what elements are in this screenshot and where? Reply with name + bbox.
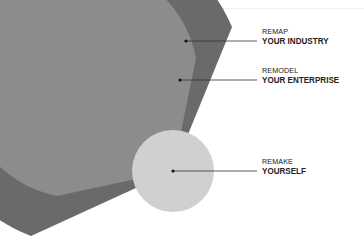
- label-title: YOUR INDUSTRY: [262, 36, 329, 46]
- label-title: YOUR ENTERPRISE: [262, 75, 339, 85]
- label-title: YOURSELF: [262, 166, 306, 176]
- label-remodel: REMODEL YOUR ENTERPRISE: [262, 67, 353, 85]
- leader-dot-icon: [178, 78, 181, 81]
- leader-dot-icon: [171, 169, 174, 172]
- label-remap: REMAP YOUR INDUSTRY: [262, 28, 340, 46]
- leader-dot-icon: [184, 39, 187, 42]
- label-remake: REMAKE YOURSELF: [262, 158, 314, 176]
